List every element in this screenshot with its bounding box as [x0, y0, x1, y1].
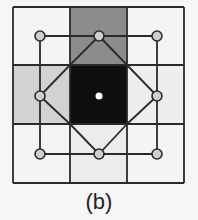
node-circle-icon	[152, 149, 162, 159]
node-circle-icon	[94, 149, 104, 159]
node-circle-icon	[94, 31, 104, 41]
node-circle-icon	[152, 91, 162, 101]
node-circle-icon	[35, 149, 45, 159]
node-circle-icon	[35, 91, 45, 101]
node-circle-icon	[152, 31, 162, 41]
grid-diagram	[0, 0, 198, 190]
center-node-dot-icon	[96, 93, 103, 100]
figure-caption: (b)	[0, 189, 198, 215]
node-circle-icon	[35, 31, 45, 41]
